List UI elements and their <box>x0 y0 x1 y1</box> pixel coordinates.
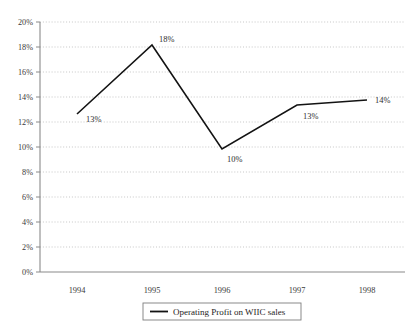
y-tick-label-10: 10% <box>18 143 33 152</box>
y-tick-label-8: 8% <box>22 168 33 177</box>
chart-canvas: 20% 18% 16% 14% 12% 10% 8% 6% 4% 2% 0% 1… <box>0 0 414 335</box>
data-label-1998: 14% <box>375 96 390 105</box>
data-label-1996: 10% <box>227 155 242 164</box>
x-tick-label-1998: 1998 <box>359 286 376 295</box>
chart-legend: Operating Profit on WIIC sales <box>143 303 301 320</box>
y-tick-label-18: 18% <box>18 43 33 52</box>
x-tick-label-1994: 1994 <box>69 286 87 295</box>
y-tick-label-2: 2% <box>22 243 33 252</box>
x-tick-label-1995: 1995 <box>144 286 161 295</box>
y-tick-label-16: 16% <box>18 68 33 77</box>
y-tick-label-14: 14% <box>18 93 33 102</box>
y-tick-label-12: 12% <box>18 118 33 127</box>
x-tick-label-1996: 1996 <box>214 286 231 295</box>
y-tick-label-0: 0% <box>22 268 33 277</box>
y-tick-label-6: 6% <box>22 193 33 202</box>
legend-label-operating-profit: Operating Profit on WIIC sales <box>173 307 286 317</box>
data-label-1997: 13% <box>303 112 318 121</box>
y-tick-label-4: 4% <box>22 218 33 227</box>
x-tick-label-1997: 1997 <box>289 286 306 295</box>
chart-background <box>0 0 414 335</box>
y-tick-label-20: 20% <box>18 18 33 27</box>
data-label-1994: 13% <box>86 115 101 124</box>
data-label-1995: 18% <box>159 35 174 44</box>
line-chart: 20% 18% 16% 14% 12% 10% 8% 6% 4% 2% 0% 1… <box>0 0 414 335</box>
